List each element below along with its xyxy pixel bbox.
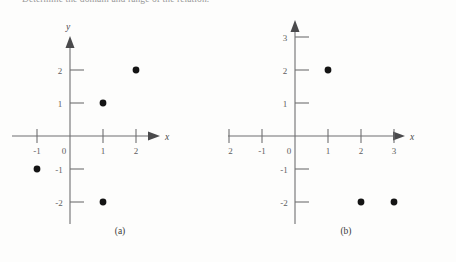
x-tick-label-a-2: 1 <box>101 146 106 156</box>
y-axis-arrow-b <box>291 20 300 32</box>
x-axis-arrow-b <box>393 132 405 141</box>
y-tick-label-a-2: -1 <box>55 165 63 175</box>
data-point <box>325 67 332 74</box>
y-tick-label-b-3: -1 <box>280 165 288 175</box>
y-tick-label-b-0: 3 <box>283 33 288 43</box>
x-tick-label-a-1: 0 <box>62 146 67 156</box>
scatter-plot-b: x y -3 -2 -1 0 1 2 3 3 2 <box>228 18 456 234</box>
x-axis-arrow-a <box>148 132 160 141</box>
plot-a-svg: x y -1 0 1 2 2 1 -1 -2 <box>0 18 228 234</box>
x-tick-label-b-2: -1 <box>258 146 266 156</box>
instruction-text: Determine the domain and range of the re… <box>22 0 352 5</box>
x-tick-label-b-1: -2 <box>228 146 233 156</box>
x-tick-label-a-3: 2 <box>134 146 139 156</box>
figure-b: x y -3 -2 -1 0 1 2 3 3 2 <box>228 18 456 262</box>
y-tick-label-b-2: 1 <box>283 99 288 109</box>
y-tick-label-a-0: 2 <box>58 66 63 76</box>
x-tick-label-a-0: -1 <box>33 146 41 156</box>
data-point <box>34 166 41 173</box>
x-tick-label-b-6: 3 <box>392 146 397 156</box>
data-point <box>100 100 107 107</box>
figure-caption-b: (b) <box>228 226 456 236</box>
y-tick-label-a-3: -2 <box>55 198 63 208</box>
y-axis-label-a: y <box>65 22 71 32</box>
y-tick-label-b-1: 2 <box>283 66 288 76</box>
y-tick-label-b-4: -2 <box>280 198 288 208</box>
figure-caption-a: (a) <box>0 226 234 236</box>
scatter-plot-a: x y -1 0 1 2 2 1 -1 -2 <box>0 18 228 234</box>
data-point <box>358 199 365 206</box>
plot-b-svg: x y -3 -2 -1 0 1 2 3 3 2 <box>228 18 456 234</box>
y-axis-arrow-a <box>66 36 75 48</box>
data-point <box>133 67 140 74</box>
x-tick-label-b-5: 2 <box>359 146 364 156</box>
x-axis-label-b: x <box>409 132 415 142</box>
data-point <box>100 199 107 206</box>
figure-a: x y -1 0 1 2 2 1 -1 -2 <box>0 18 228 262</box>
x-axis-label-a: x <box>164 132 170 142</box>
x-tick-label-b-4: 1 <box>326 146 331 156</box>
x-tick-label-b-3: 0 <box>287 146 292 156</box>
y-tick-label-a-1: 1 <box>58 99 63 109</box>
data-point <box>391 199 398 206</box>
